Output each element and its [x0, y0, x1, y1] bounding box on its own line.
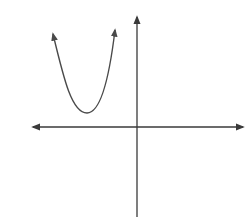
parabola-right-branch: [87, 30, 115, 113]
graph-canvas: [0, 0, 250, 217]
parabola-curve: [53, 30, 115, 113]
parabola-left-branch: [53, 34, 87, 113]
